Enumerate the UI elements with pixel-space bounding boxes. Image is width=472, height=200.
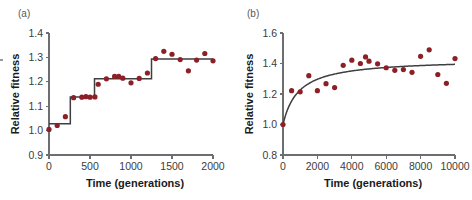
y-tick-label: 1.0	[28, 124, 43, 136]
data-point	[169, 52, 174, 57]
panel-b-plot: 0.81.01.21.41.60200040006000800010000Tim…	[236, 0, 472, 200]
x-axis-title: Time (generations)	[324, 177, 423, 189]
x-axis-title: Time (generations)	[86, 177, 185, 189]
data-point	[444, 81, 449, 86]
data-point	[92, 94, 97, 99]
y-tick-label: 1.0	[262, 118, 277, 130]
x-tick-label: 6000	[375, 160, 399, 172]
panel-b: (b) 0.81.01.21.41.6020004000600080001000…	[236, 0, 472, 200]
data-point	[418, 54, 423, 59]
data-point	[153, 56, 158, 61]
data-point	[306, 73, 311, 78]
data-point	[137, 76, 142, 81]
panel-a: (a) 0.91.01.11.21.31.40500100015002000Ti…	[0, 0, 236, 200]
x-tick-label: 1500	[160, 160, 184, 172]
data-point	[401, 67, 406, 72]
figure-container: (a) 0.91.01.11.21.31.40500100015002000Ti…	[0, 0, 472, 200]
x-tick-label: 0	[46, 160, 52, 172]
x-tick-label: 500	[81, 160, 99, 172]
data-point	[349, 58, 354, 63]
data-point	[71, 95, 76, 100]
data-point	[161, 49, 166, 54]
panel-a-plot: 0.91.01.11.21.31.40500100015002000Time (…	[0, 0, 236, 200]
y-tick-label: 1.1	[28, 100, 43, 112]
data-point	[55, 123, 60, 128]
data-point	[202, 51, 207, 56]
data-point	[358, 61, 363, 66]
data-point	[280, 122, 285, 127]
data-point	[375, 61, 380, 66]
data-point	[315, 88, 320, 93]
data-point-group	[46, 49, 215, 132]
data-point	[87, 95, 92, 100]
data-point	[46, 127, 51, 132]
data-point	[363, 54, 368, 59]
data-point	[104, 76, 109, 81]
data-point	[366, 59, 371, 64]
axis-spines	[49, 33, 213, 155]
data-point	[384, 65, 389, 70]
x-tick-label: 8000	[409, 160, 433, 172]
data-point-group	[280, 47, 457, 127]
data-point	[120, 76, 125, 81]
data-point	[128, 80, 133, 85]
x-tick-label: 4000	[340, 160, 364, 172]
x-tick-label: 0	[280, 160, 286, 172]
y-axis-title: Relative fitness	[243, 54, 255, 135]
y-tick-label: 0.8	[262, 149, 277, 161]
x-tick-label: 10000	[440, 160, 469, 172]
data-point	[392, 68, 397, 73]
x-tick-label: 2000	[306, 160, 330, 172]
y-tick-label: 1.6	[262, 27, 277, 39]
y-tick-label: 1.2	[28, 75, 43, 87]
data-point	[178, 57, 183, 62]
data-point	[63, 114, 68, 119]
y-axis-title: Relative fitness	[9, 54, 21, 135]
data-point	[145, 70, 150, 75]
y-tick-label: 1.2	[262, 88, 277, 100]
x-tick-label: 1000	[119, 160, 143, 172]
data-point	[210, 58, 215, 63]
y-tick-label: 1.4	[262, 57, 277, 69]
data-point	[427, 47, 432, 52]
data-point	[435, 72, 440, 77]
data-point	[409, 70, 414, 75]
y-tick-label: 1.3	[28, 51, 43, 63]
data-point	[289, 88, 294, 93]
data-point	[298, 89, 303, 94]
y-tick-label: 1.4	[28, 27, 43, 39]
data-point	[186, 68, 191, 73]
data-point	[194, 57, 199, 62]
data-point	[452, 56, 457, 61]
x-tick-label: 2000	[201, 160, 225, 172]
data-point	[341, 63, 346, 68]
data-point	[323, 81, 328, 86]
data-point	[332, 85, 337, 90]
data-point	[96, 82, 101, 87]
y-tick-label: 0.9	[28, 149, 43, 161]
